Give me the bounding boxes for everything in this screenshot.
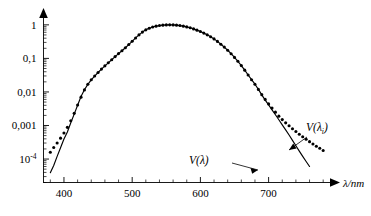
data-point-marker	[288, 124, 291, 127]
data-point-marker	[165, 23, 168, 26]
data-point-marker	[124, 46, 127, 49]
data-point-marker	[243, 69, 246, 72]
x-axis-arrow-icon	[330, 178, 340, 187]
y-axis-tick-labels: 10,10,010,00110-4	[12, 19, 37, 165]
data-point-marker	[274, 111, 277, 114]
data-point-marker	[110, 58, 113, 61]
y-axis-tick-label: 0,1	[23, 52, 37, 64]
data-point-marker	[253, 83, 256, 86]
data-point-marker	[308, 140, 311, 143]
data-point-marker	[97, 71, 100, 74]
data-point-marker	[250, 78, 253, 81]
data-point-marker	[178, 24, 181, 27]
data-point-marker	[137, 33, 140, 36]
data-point-marker	[103, 64, 106, 67]
data-point-marker	[298, 133, 301, 136]
data-point-marker	[212, 37, 215, 40]
data-point-marker	[199, 30, 202, 33]
solid-curve-label: V(λ)	[189, 154, 209, 167]
data-point-marker	[141, 31, 144, 34]
data-point-marker	[267, 102, 270, 105]
data-point-marker	[144, 28, 147, 31]
luminous-efficiency-plot: 400500600700 10,10,010,00110-4 V(λ) V(λi…	[0, 0, 371, 216]
y-axis-tick-label-scientific: 10-4	[19, 152, 36, 166]
x-axis-ticks	[50, 177, 323, 183]
data-point-marker	[90, 78, 93, 81]
data-point-marker	[240, 64, 243, 67]
data-point-marker	[219, 43, 222, 46]
data-point-marker	[155, 25, 158, 28]
data-point-marker	[260, 93, 263, 96]
x-axis-tick-label: 600	[192, 187, 209, 199]
x-axis-tick-label: 400	[56, 187, 73, 199]
data-point-marker	[62, 131, 65, 134]
data-point-marker	[56, 141, 59, 144]
y-axis-tick-label: 0,01	[17, 86, 36, 98]
data-point-marker	[148, 27, 151, 30]
data-point-marker	[127, 43, 130, 46]
data-point-marker	[294, 130, 297, 133]
data-point-marker	[189, 26, 192, 29]
data-point-marker	[311, 143, 314, 146]
solid-curve-v-lambda	[50, 25, 309, 173]
data-point-marker	[236, 60, 239, 63]
data-point-marker	[73, 112, 76, 115]
x-axis-group: 400500600700	[43, 177, 340, 199]
data-point-marker	[257, 88, 260, 91]
data-point-marker	[131, 40, 134, 43]
x-axis-tick-labels: 400500600700	[56, 187, 278, 199]
dotted-curve-label: V(λi)	[306, 121, 328, 136]
data-point-marker	[264, 98, 267, 101]
x-axis-tick-label: 700	[260, 187, 277, 199]
data-point-marker	[270, 107, 273, 110]
data-point-marker	[233, 56, 236, 59]
data-point-marker	[223, 46, 226, 49]
x-axis-label: λ/nm	[342, 177, 364, 189]
data-point-marker	[86, 83, 89, 86]
x-axis-tick-label: 500	[124, 187, 141, 199]
data-point-marker	[93, 74, 96, 77]
solid-curve-leader-line	[232, 163, 258, 170]
data-point-marker	[107, 61, 110, 64]
data-point-marker	[291, 127, 294, 130]
data-point-marker	[192, 27, 195, 30]
data-point-marker	[277, 115, 280, 118]
annotation-dotted: V(λi)	[289, 121, 328, 150]
data-point-marker	[226, 49, 229, 52]
data-point-marker	[195, 29, 198, 32]
y-axis-group: 10,10,010,00110-4	[12, 8, 49, 183]
data-point-marker	[134, 36, 137, 39]
data-point-marker	[76, 103, 79, 106]
y-axis-tick-label: 1	[31, 19, 37, 31]
data-point-marker	[175, 24, 178, 27]
data-point-marker	[168, 23, 171, 26]
data-point-marker	[230, 52, 233, 55]
data-point-marker	[315, 145, 318, 148]
data-point-marker	[185, 25, 188, 28]
y-axis-ticks	[44, 25, 50, 183]
data-point-marker	[59, 137, 62, 140]
y-axis-tick-label: 0,001	[12, 119, 37, 131]
chart-figure: 400500600700 10,10,010,00110-4 V(λ) V(λi…	[0, 0, 371, 216]
data-point-marker	[182, 25, 185, 28]
data-point-marker	[216, 40, 219, 43]
data-point-marker	[161, 24, 164, 27]
data-point-marker	[301, 135, 304, 138]
data-point-marker	[158, 24, 161, 27]
data-point-marker	[69, 119, 72, 122]
annotation-solid: V(λ)	[189, 154, 258, 174]
data-point-marker	[209, 35, 212, 38]
data-point-marker	[202, 32, 205, 35]
data-point-marker	[79, 96, 82, 99]
data-point-marker	[172, 23, 175, 26]
data-point-marker	[100, 68, 103, 71]
data-point-marker	[247, 73, 250, 76]
y-axis-arrow-icon	[39, 8, 48, 18]
data-point-marker	[117, 52, 120, 55]
data-point-marker	[284, 121, 287, 124]
data-point-marker	[49, 151, 52, 154]
data-point-marker	[114, 55, 117, 58]
dotted-curve-v-lambda-i	[49, 23, 325, 153]
data-point-marker	[322, 149, 325, 152]
data-point-marker	[52, 146, 55, 149]
